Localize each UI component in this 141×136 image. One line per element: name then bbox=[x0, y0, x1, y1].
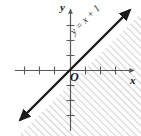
x-axis-label: x bbox=[130, 75, 136, 86]
origin-label: O bbox=[70, 71, 79, 83]
y-axis-label: y bbox=[60, 2, 65, 13]
plot-canvas bbox=[0, 0, 141, 136]
coordinate-plane-figure: y x O y = x + 1 bbox=[0, 0, 141, 136]
